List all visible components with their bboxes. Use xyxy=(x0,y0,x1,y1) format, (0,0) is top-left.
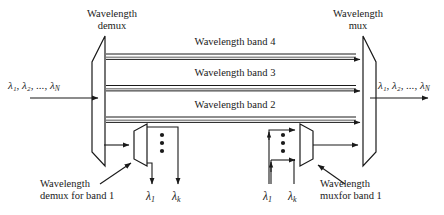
mux-band-1-caption-line1: Wavelength xyxy=(320,178,382,190)
demux-band-1-caption-line2: demux for band 1 xyxy=(40,190,114,202)
sub-mux-ellipsis-dots xyxy=(281,133,285,153)
sub-mux-input-lambda-k: λk xyxy=(288,190,297,205)
sub-mux-input-lambda-1-subscript: 1 xyxy=(268,195,272,204)
wavelength-demux-heading-line2: demux xyxy=(72,20,152,32)
band-4-label: Wavelength band 4 xyxy=(165,36,305,48)
sub-mux-input-branches xyxy=(269,130,295,184)
sub-demux-output-lambda-k-subscript: k xyxy=(177,195,181,204)
wavelength-mux-heading: Wavelength mux xyxy=(318,8,398,32)
demux-band-1-caption: Wavelength demux for band 1 xyxy=(40,178,114,202)
band-2-trunk xyxy=(106,117,360,122)
sub-demux-ellipsis-dots xyxy=(160,133,164,153)
wavelength-demux-heading-line1: Wavelength xyxy=(72,8,152,20)
output-wavelength-label: λ₁, λ₂, ..., λN xyxy=(378,79,430,93)
sub-mux-input-lambda-k-subscript: k xyxy=(293,195,297,204)
wavelength-mux-body xyxy=(363,36,376,166)
band-4-trunk xyxy=(106,54,360,59)
band-2-label: Wavelength band 2 xyxy=(165,99,305,111)
wavelength-mux-heading-line1: Wavelength xyxy=(318,8,398,20)
mux-band-1-caption-line2: muxfor band 1 xyxy=(320,190,382,202)
sub-mux-band-1-body xyxy=(300,124,313,166)
figure-canvas: Wavelength demux Wavelength mux Waveleng… xyxy=(0,0,444,215)
sub-demux-output-lambda-1: λ1 xyxy=(146,190,155,205)
input-wavelength-label: λ₁, λ₂, ..., λN xyxy=(8,79,60,93)
demux-band-1-caption-line1: Wavelength xyxy=(40,178,114,190)
input-wavelength-subscript: N xyxy=(55,84,60,93)
band-3-trunk xyxy=(106,86,360,91)
output-wavelength-subscript: N xyxy=(425,84,430,93)
sub-demux-band-1-body xyxy=(134,124,147,166)
wavelength-demux-body xyxy=(92,36,105,166)
mux-band-1-caption: Wavelength muxfor band 1 xyxy=(320,178,382,202)
sub-mux-input-lambda-1: λ1 xyxy=(263,190,272,205)
sub-demux-output-lambda-k: λk xyxy=(172,190,181,205)
input-wavelength-text: λ₁, λ₂, ..., λ xyxy=(8,79,55,91)
band-3-label: Wavelength band 3 xyxy=(165,67,305,79)
wavelength-mux-heading-line2: mux xyxy=(318,20,398,32)
output-wavelength-text: λ₁, λ₂, ..., λ xyxy=(378,79,425,91)
sub-demux-output-lambda-1-subscript: 1 xyxy=(151,195,155,204)
wavelength-demux-heading: Wavelength demux xyxy=(72,8,152,32)
